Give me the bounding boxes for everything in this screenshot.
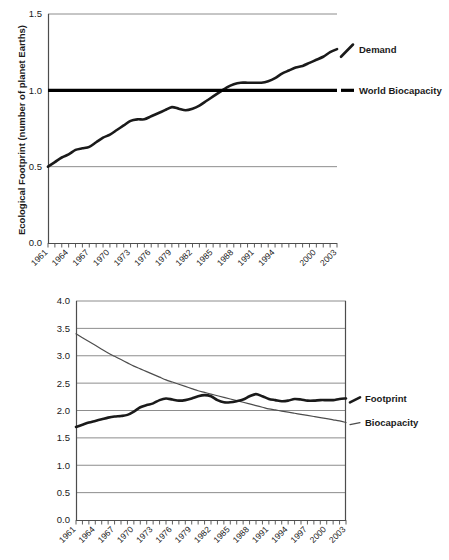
bottom-chart-biocapacity-line	[76, 334, 346, 423]
top-chart-x-tick-label: 1988	[215, 247, 236, 268]
top-chart-demand-line	[48, 49, 337, 167]
bottom-chart-y-tick-label: 2.5	[57, 378, 70, 389]
bottom-chart-x-tick-labels: 1961196419671970197319761979198219851988…	[57, 524, 348, 545]
top-chart-x-tick-label: 1976	[132, 247, 153, 268]
bottom-chart-y-tick-label: 3.5	[57, 323, 70, 334]
bottom-chart-y-tick-label: 3.0	[57, 350, 70, 361]
bottom-chart-y-tick-label: 0.0	[57, 514, 70, 525]
top-chart-ecological-footprint: Ecological Footprint (number of planet E…	[0, 0, 449, 290]
top-chart-y-tick-label: 0.5	[29, 161, 42, 172]
bottom-chart-y-tick-label: 2.0	[57, 405, 70, 416]
bottom-chart-x-tick-label: 1985	[211, 524, 232, 545]
top-chart-x-tick-label: 1961	[29, 247, 50, 268]
top-chart-x-tick-label: 1979	[153, 247, 174, 268]
top-chart-y-tick-label: 1.0	[29, 85, 42, 96]
bottom-chart-y-tick-labels: 0.00.51.01.52.02.53.03.54.0	[57, 295, 70, 525]
top-chart-x-tick-labels: 1961196419671970197319761979198219851988…	[29, 247, 339, 268]
top-chart-x-tick-label: 1991	[235, 247, 256, 268]
top-chart-x-tick-label: 1964	[50, 247, 71, 268]
top-chart-x-tick-label: 1982	[173, 247, 194, 268]
bottom-legend-biocapacity-label: Biocapacity	[365, 417, 419, 428]
bottom-chart-x-tick-label: 1997	[288, 524, 309, 545]
top-chart-y-tick-label: 0.0	[29, 237, 42, 248]
top-chart-y-tick-labels: 0.00.51.01.5	[29, 8, 42, 248]
bottom-legend-footprint-swatch-icon	[350, 397, 360, 402]
top-chart-x-tick-label: 1994	[256, 247, 277, 268]
bottom-legend-biocapacity-swatch-icon	[350, 423, 360, 425]
bottom-chart-x-tick-label: 1982	[192, 524, 213, 545]
bottom-chart-x-tick-label: 1973	[134, 524, 155, 545]
top-chart-x-tick-label: 2003	[318, 247, 339, 268]
top-chart-x-tick-label: 1985	[194, 247, 215, 268]
bottom-chart-x-tick-label: 1970	[115, 524, 136, 545]
bottom-chart-global-hectares: Global hectares per person 0.00.51.01.52…	[0, 290, 449, 560]
bottom-chart-x-tick-label: 1961	[57, 524, 78, 545]
bottom-chart-x-tick-label: 1994	[269, 524, 290, 545]
two-panel-line-chart-figure: Ecological Footprint (number of planet E…	[0, 0, 449, 560]
top-chart-y-axis-title: Ecological Footprint (number of planet E…	[16, 25, 27, 235]
bottom-chart-x-tick-label: 1979	[173, 524, 194, 545]
bottom-chart-y-tick-label: 1.0	[57, 460, 70, 471]
top-legend-biocapacity-label: World Biocapacity	[359, 85, 442, 96]
bottom-chart-x-tick-label: 2003	[327, 524, 348, 545]
bottom-chart-x-tick-label: 2000	[308, 524, 329, 545]
bottom-chart-x-tick-label: 1964	[76, 524, 97, 545]
bottom-legend-footprint-label: Footprint	[365, 393, 408, 404]
top-chart-x-tick-label: 1970	[91, 247, 112, 268]
bottom-chart-y-tick-label: 0.5	[57, 487, 70, 498]
bottom-chart-x-tick-label: 1991	[250, 524, 271, 545]
bottom-chart-y-tick-label: 1.5	[57, 432, 70, 443]
bottom-chart-y-tick-label: 4.0	[57, 295, 70, 306]
top-legend-demand-swatch-icon	[341, 45, 353, 57]
top-chart-x-tick-label: 1967	[70, 247, 91, 268]
top-chart-x-tick-label: 1973	[112, 247, 133, 268]
bottom-chart-x-tick-label: 1988	[231, 524, 252, 545]
top-chart-x-tick-label: 2000	[297, 247, 318, 268]
top-chart-y-tick-label: 1.5	[29, 8, 42, 19]
bottom-chart-x-tick-label: 1967	[96, 524, 117, 545]
top-legend-demand-label: Demand	[359, 44, 397, 55]
bottom-chart-x-tick-label: 1976	[153, 524, 174, 545]
